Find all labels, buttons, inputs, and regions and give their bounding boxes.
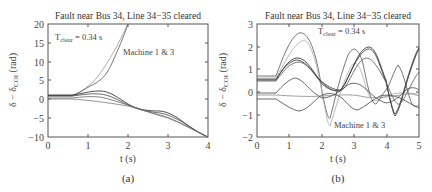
y-tick: 3 — [248, 19, 253, 30]
panel-b-title: Fault near Bus 34, Line 34−35 cleared — [265, 11, 411, 21]
curve-other-lower — [48, 97, 208, 137]
x-tick: 2 — [126, 140, 131, 151]
panel-b-xlabel: t (s) — [330, 153, 346, 165]
y-tick: 1 — [248, 64, 253, 75]
y-tick: −10 — [28, 132, 44, 143]
y-tick: −5 — [33, 113, 44, 124]
panel-a-ylabel: δ − δCOI (rad) — [7, 53, 20, 107]
y-tick: 20 — [34, 19, 44, 30]
figure: Fault near Bus 34, Line 34−35 cleared 0 … — [0, 0, 432, 192]
y-tick: −1 — [242, 110, 253, 121]
x-tick: 0 — [46, 140, 51, 151]
panel-a-plot-area: 0 1 2 3 4 20 15 10 5 0 −5 −10 — [28, 19, 210, 151]
x-tick: 4 — [385, 140, 390, 151]
curve-group-bold — [257, 47, 419, 116]
panel-a: Fault near Bus 34, Line 34−35 cleared 0 … — [7, 11, 211, 185]
panel-b-tclear-label: Tclear = 0.34 s — [318, 26, 365, 37]
y-tick: 0 — [39, 94, 44, 105]
panel-a-x-ticks: 0 1 2 3 4 — [46, 24, 211, 151]
x-tick: 3 — [166, 140, 171, 151]
y-tick: 5 — [39, 75, 44, 86]
y-tick: 10 — [34, 57, 44, 68]
x-tick: 2 — [320, 140, 325, 151]
x-tick: 4 — [206, 140, 211, 151]
curve-machine-1-3 — [257, 33, 419, 118]
panel-b-plot-area: 0 1 2 3 4 5 3 2 1 0 −1 −2 — [242, 19, 421, 151]
panel-b: Fault near Bus 34, Line 34−35 cleared 0 … — [217, 11, 422, 185]
panel-a-tclear-label: Tclear = 0.34 s — [55, 32, 102, 43]
curve-machine-1-3-light — [257, 40, 419, 126]
x-tick: 1 — [287, 140, 292, 151]
panel-a-title: Fault near Bus 34, Line 34−35 cleared — [55, 11, 201, 21]
curve-other-middle — [48, 94, 208, 137]
curve-group-3 — [257, 58, 419, 104]
panel-b-machine-label: Machine 1 & 3 — [334, 120, 385, 130]
y-tick: 15 — [34, 38, 44, 49]
y-tick: 0 — [248, 87, 253, 98]
curve-group-2 — [257, 48, 419, 114]
panel-a-xlabel: t (s) — [120, 153, 136, 165]
panel-b-ylabel: δ − δCOI (rad) — [217, 53, 230, 107]
x-tick: 5 — [417, 140, 422, 151]
x-tick: 3 — [352, 140, 357, 151]
x-tick: 1 — [86, 140, 91, 151]
panel-b-caption: (b) — [332, 172, 345, 185]
y-tick: 2 — [248, 42, 253, 53]
panel-a-machine-label: Machine 1 & 3 — [123, 47, 174, 57]
panel-a-caption: (a) — [122, 172, 135, 185]
panel-b-curves — [257, 33, 419, 126]
y-tick: −2 — [242, 132, 253, 143]
x-tick: 0 — [255, 140, 260, 151]
